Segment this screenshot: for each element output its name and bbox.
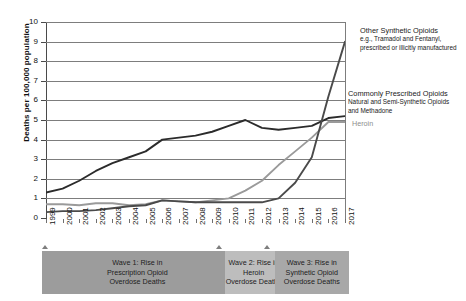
x-tick-mark bbox=[112, 219, 113, 223]
y-tick-label: 5 bbox=[18, 116, 38, 124]
y-tick-label: 1 bbox=[18, 194, 38, 202]
wave-1-line3: Overdose Deaths bbox=[107, 277, 168, 287]
series-line bbox=[46, 116, 345, 192]
wave-marker-arrow-2010 bbox=[216, 245, 222, 249]
x-tick-mark bbox=[146, 219, 147, 223]
annotation-other-synthetic-opioids: Other Synthetic Opioids e.g., Tramadol a… bbox=[360, 26, 464, 52]
x-tick-mark bbox=[79, 219, 80, 223]
x-tick-mark bbox=[279, 219, 280, 223]
annotation-prescribed-line2: Natural and Semi-Synthetic Opioids bbox=[348, 98, 466, 106]
opioid-overdose-chart: Deaths per 100,000 population 0123456789… bbox=[0, 0, 466, 301]
x-tick-label: 2007 bbox=[182, 207, 190, 225]
x-tick-label: 2003 bbox=[115, 207, 123, 225]
wave-box-3: Wave 3: Rise in Synthetic Opioid Overdos… bbox=[275, 251, 349, 294]
x-tick-mark bbox=[96, 219, 97, 223]
x-tick-mark bbox=[262, 219, 263, 223]
annotation-prescribed-line3: and Methadone bbox=[348, 107, 466, 115]
x-tick-label: 2005 bbox=[149, 207, 157, 225]
series-line bbox=[46, 122, 345, 205]
annotation-other-synthetic-line3: prescribed or illicitly manufactured bbox=[360, 44, 464, 52]
annotation-other-synthetic-title: Other Synthetic Opioids bbox=[360, 26, 464, 35]
x-tick-mark bbox=[229, 219, 230, 223]
x-tick-mark bbox=[245, 219, 246, 223]
x-tick-mark bbox=[328, 219, 329, 223]
y-tick-label: 7 bbox=[18, 77, 38, 85]
x-tick-mark bbox=[312, 219, 313, 223]
y-tick-label: 10 bbox=[18, 18, 38, 26]
x-tick-label: 2015 bbox=[315, 207, 323, 225]
x-tick-mark bbox=[46, 219, 47, 223]
x-tick-label: 2008 bbox=[199, 207, 207, 225]
y-tick-label: 6 bbox=[18, 96, 38, 104]
x-tick-label: 2011 bbox=[248, 208, 256, 225]
x-tick-label: 2010 bbox=[232, 207, 240, 225]
annotation-other-synthetic-line2: e.g., Tramadol and Fentanyl, bbox=[360, 35, 464, 43]
annotation-prescribed-title: Commonly Prescribed Opioids bbox=[348, 89, 466, 98]
x-tick-label: 2014 bbox=[298, 207, 306, 225]
x-tick-label: 2017 bbox=[348, 207, 356, 225]
x-tick-mark bbox=[196, 219, 197, 223]
wave-3-line1: Wave 3: Rise in bbox=[284, 258, 340, 268]
y-tick-label: 2 bbox=[18, 175, 38, 183]
wave-marker-arrow-1999 bbox=[42, 245, 48, 249]
y-tick-label: 3 bbox=[18, 155, 38, 163]
wave-marker-arrow-2013 bbox=[264, 245, 270, 249]
x-tick-label: 2012 bbox=[265, 207, 273, 225]
x-tick-label: 2002 bbox=[99, 207, 107, 225]
wave-3-line3: Overdose Deaths bbox=[284, 277, 340, 287]
x-tick-label: 2000 bbox=[66, 207, 74, 225]
x-tick-mark bbox=[162, 219, 163, 223]
x-tick-label: 2001 bbox=[82, 207, 90, 225]
annotation-commonly-prescribed-opioids: Commonly Prescribed Opioids Natural and … bbox=[348, 89, 466, 115]
series-lines bbox=[46, 22, 345, 218]
plot-right-border bbox=[345, 22, 346, 219]
wave-1-line2: Prescription Opioid bbox=[107, 268, 168, 278]
x-tick-label: 2009 bbox=[215, 207, 223, 225]
wave-3-line2: Synthetic Opioid bbox=[284, 268, 340, 278]
annotation-heroin: Heroin bbox=[352, 119, 373, 128]
x-tick-label: 2006 bbox=[165, 207, 173, 225]
x-tick-mark bbox=[129, 219, 130, 223]
x-tick-label: 1999 bbox=[49, 207, 57, 225]
wave-1-line1: Wave 1: Rise in bbox=[107, 258, 168, 268]
y-tick-label: 9 bbox=[18, 38, 38, 46]
y-tick-label: 8 bbox=[18, 57, 38, 65]
x-tick-mark bbox=[179, 219, 180, 223]
y-tick-label: 0 bbox=[18, 214, 38, 222]
x-tick-label: 2004 bbox=[132, 207, 140, 225]
x-tick-mark bbox=[345, 219, 346, 223]
x-tick-mark bbox=[63, 219, 64, 223]
x-tick-label: 2013 bbox=[282, 207, 290, 225]
x-tick-label: 2016 bbox=[331, 207, 339, 225]
x-tick-mark bbox=[212, 219, 213, 223]
wave-box-1: Wave 1: Rise in Prescription Opioid Over… bbox=[42, 251, 233, 294]
x-tick-mark bbox=[295, 219, 296, 223]
y-tick-label: 4 bbox=[18, 136, 38, 144]
